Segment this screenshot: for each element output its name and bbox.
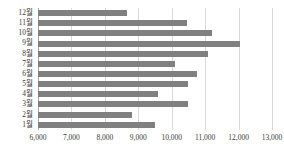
bar-6월 xyxy=(38,71,197,77)
category-label-9월: 9월 xyxy=(0,38,36,48)
category-label-8월: 8월 xyxy=(0,49,36,59)
tick-label-7000: 7,000 xyxy=(63,132,80,144)
tick-label-12000: 12,000 xyxy=(228,132,249,144)
bar-11월 xyxy=(38,20,187,26)
bar-7월 xyxy=(38,61,175,67)
value-axis: 6,0007,0008,0009,00010,00011,00012,00013… xyxy=(38,132,272,146)
category-label-6월: 6월 xyxy=(0,69,36,79)
bar-2월 xyxy=(38,112,132,118)
category-label-11월: 11월 xyxy=(0,18,36,28)
category-label-7월: 7월 xyxy=(0,59,36,69)
category-label-10월: 10월 xyxy=(0,28,36,38)
bar-4월 xyxy=(38,91,158,97)
bar-row xyxy=(38,49,272,59)
bar-row xyxy=(38,28,272,38)
bar-series xyxy=(38,8,272,130)
bar-row xyxy=(38,99,272,109)
category-axis: 12월11월10월9월8월7월6월5월4월3월2월1월 xyxy=(0,8,36,130)
category-label-1월: 1월 xyxy=(0,120,36,130)
bar-row xyxy=(38,18,272,28)
bar-row xyxy=(38,89,272,99)
category-label-5월: 5월 xyxy=(0,79,36,89)
bar-row xyxy=(38,8,272,18)
bar-10월 xyxy=(38,30,212,36)
tick-label-10000: 10,000 xyxy=(161,132,182,144)
bar-row xyxy=(38,120,272,130)
bar-row xyxy=(38,69,272,79)
category-label-3월: 3월 xyxy=(0,99,36,109)
tick-label-6000: 6,000 xyxy=(30,132,47,144)
bar-row xyxy=(38,59,272,69)
bar-row xyxy=(38,110,272,120)
category-label-4월: 4월 xyxy=(0,89,36,99)
bar-3월 xyxy=(38,101,188,107)
tick-label-13000: 13,000 xyxy=(262,132,283,144)
bar-9월 xyxy=(38,41,240,47)
gridline-13000 xyxy=(272,8,273,130)
bar-chart: 12월11월10월9월8월7월6월5월4월3월2월1월 6,0007,0008,… xyxy=(0,0,284,154)
category-label-12월: 12월 xyxy=(0,8,36,18)
tick-label-11000: 11,000 xyxy=(195,132,215,144)
bar-row xyxy=(38,38,272,48)
bar-8월 xyxy=(38,51,208,57)
bar-row xyxy=(38,79,272,89)
bar-1월 xyxy=(38,122,155,128)
tick-label-8000: 8,000 xyxy=(96,132,113,144)
tick-label-9000: 9,000 xyxy=(130,132,147,144)
bar-5월 xyxy=(38,81,188,87)
plot-area xyxy=(38,8,272,130)
bar-12월 xyxy=(38,10,127,16)
category-label-2월: 2월 xyxy=(0,110,36,120)
